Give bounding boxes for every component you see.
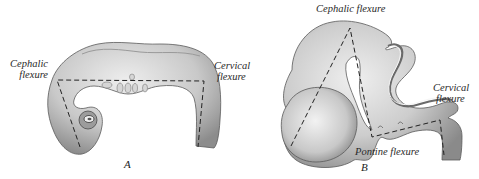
panel-a-cervical-flexure-label: Cervical flexure (214, 60, 250, 82)
panel-a-letter: A (124, 158, 131, 170)
panel-a-embryo (48, 42, 221, 154)
panel-a-cervical-line2: flexure (214, 71, 250, 82)
panel-a-cephalic-line1: Cephalic (4, 58, 48, 69)
panel-b-cephalic-flexure-label: Cephalic flexure (316, 3, 385, 14)
panel-b-cervical-flexure-label: Cervical flexure (433, 82, 469, 104)
panel-a-cervical-line1: Cervical (214, 60, 250, 71)
panel-b-letter: B (361, 161, 368, 173)
panel-a-body-shape (48, 42, 221, 154)
panel-a-cephalic-line2: flexure (4, 69, 48, 80)
panel-b-forebrain-bulb (281, 87, 357, 162)
panel-b-pontine-flexure-label: Pontine flexure (355, 146, 419, 157)
panel-b-cervical-line1: Cervical (433, 82, 469, 93)
panel-a-optic-vesicle (79, 111, 97, 129)
panel-b-cervical-line2: flexure (433, 93, 469, 104)
panel-a-cephalic-flexure-label: Cephalic flexure (4, 58, 48, 80)
